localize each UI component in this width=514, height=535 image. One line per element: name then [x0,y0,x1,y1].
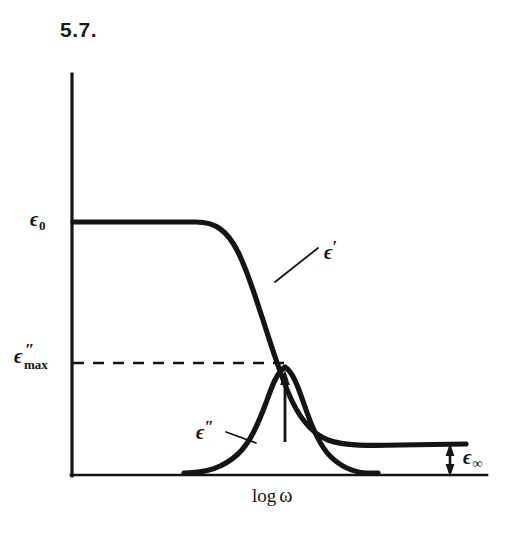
plot-canvas [0,0,514,535]
eps-prime-curve [73,222,466,445]
figure-container: 5.7. ϵ0 [0,0,514,535]
peak-arrow [280,370,290,442]
eps-infinity-bracket [446,443,455,477]
eps-prime-leader-line [275,248,318,282]
